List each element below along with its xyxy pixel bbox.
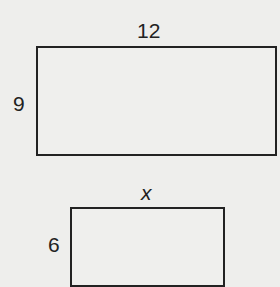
large-rectangle: [36, 46, 277, 156]
small-rectangle: [70, 207, 225, 287]
small-rectangle-width-label: x: [141, 182, 152, 203]
large-rectangle-width-label: 12: [137, 20, 160, 41]
small-rectangle-height-label: 6: [48, 234, 60, 255]
large-rectangle-height-label: 9: [13, 93, 25, 114]
